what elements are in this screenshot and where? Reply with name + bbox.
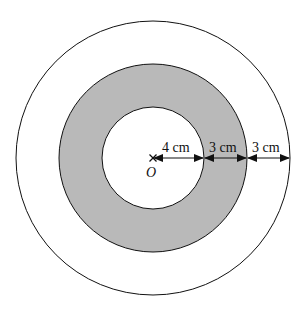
dimension-label-4cm: 4 cm	[162, 140, 190, 155]
concentric-circles-diagram: 4 cm 3 cm 3 cm O	[0, 0, 302, 312]
dimension-label-3cm-outer: 3 cm	[252, 140, 280, 155]
center-label-o: O	[146, 165, 156, 180]
dimension-label-3cm-inner: 3 cm	[209, 140, 237, 155]
